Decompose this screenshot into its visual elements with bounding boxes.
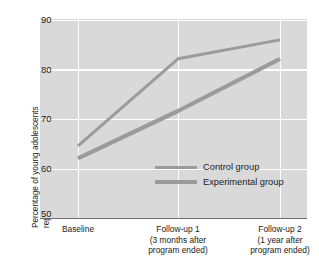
x-tick-label-followup-2: Follow-up 2 (1 year after program ended) [228, 224, 319, 256]
legend-label-experimental-group: Experimental group [203, 175, 284, 189]
y-tick-label-50: 50 [41, 208, 67, 219]
x-tick-followup-1-line-1: Follow-up 1 [126, 224, 230, 235]
y-tick-label-70: 70 [41, 113, 67, 124]
legend-item-experimental-group: Experimental group [155, 175, 305, 190]
y-tick-label-80: 80 [41, 64, 67, 75]
series-line-experimental-group [78, 59, 280, 159]
x-tick-followup-1-line-3: program ended) [126, 245, 230, 256]
x-tick-followup-1-line-2: (3 months after [126, 235, 230, 246]
x-axis-line [40, 218, 307, 219]
x-tick-followup-2-line-3: program ended) [228, 245, 319, 256]
legend-label-control-group: Control group [203, 160, 259, 174]
x-tick-label-baseline: Baseline [26, 224, 130, 235]
chart-legend: Control group Experimental group [155, 160, 305, 190]
x-tick-baseline-line-1: Baseline [26, 224, 130, 235]
x-tick-followup-2-line-2: (1 year after [228, 235, 319, 246]
x-tick-label-followup-1: Follow-up 1 (3 months after program ende… [126, 224, 230, 256]
legend-swatch-experimental-group [155, 180, 197, 184]
series-line-control-group [78, 40, 280, 146]
x-tick-followup-2-line-1: Follow-up 2 [228, 224, 319, 235]
line-chart: Percentage of young adolescents reportin… [0, 0, 319, 273]
y-tick-label-60: 60 [41, 163, 67, 174]
legend-swatch-control-group [155, 166, 197, 169]
legend-item-control-group: Control group [155, 160, 305, 175]
y-axis-title: Percentage of young adolescents reportin… [0, 0, 36, 232]
y-tick-label-90: 90 [41, 14, 67, 25]
